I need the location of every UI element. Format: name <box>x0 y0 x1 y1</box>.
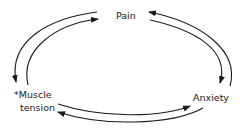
node-muscle-tension-line2: tension <box>20 102 55 113</box>
node-anxiety: Anxiety <box>193 92 229 103</box>
arrow-pain-to-anxiety <box>150 20 222 83</box>
node-muscle-tension-line1: *Muscle <box>14 89 52 100</box>
arrow-muscle-to-pain <box>27 19 98 85</box>
node-pain: Pain <box>116 10 136 21</box>
arrow-muscle-to-anxiety <box>58 104 190 115</box>
